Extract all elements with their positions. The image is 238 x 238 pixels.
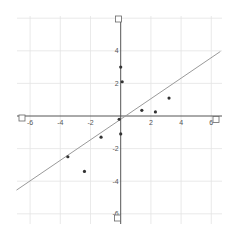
y-tick-label: 2 (115, 80, 119, 87)
y-tick-label: 4 (115, 47, 119, 54)
data-point (66, 155, 69, 158)
data-point (121, 80, 124, 83)
data-point (119, 132, 122, 135)
x-tick-label: -2 (87, 119, 93, 126)
x-tick-label: -6 (27, 119, 33, 126)
data-point (140, 109, 143, 112)
x-tick-label: 2 (149, 119, 153, 126)
data-point (167, 96, 170, 99)
x-tick-label: -4 (57, 119, 63, 126)
y-min-handle[interactable] (115, 215, 121, 221)
data-point (99, 136, 102, 139)
data-point (119, 66, 122, 69)
x-min-handle[interactable] (19, 115, 25, 121)
data-point (118, 118, 121, 121)
tick-labels: -6-4-224642-2-4-6 (27, 47, 213, 217)
x-tick-label: 4 (179, 119, 183, 126)
regression-line (17, 51, 221, 190)
fit-line (17, 51, 221, 190)
y-tick-label: -4 (112, 178, 118, 185)
scatter-plot: -6-4-224642-2-4-6 (0, 0, 238, 238)
data-point (154, 110, 157, 113)
x-max-handle[interactable] (213, 117, 219, 123)
y-max-handle[interactable] (116, 16, 122, 22)
y-tick-label: -2 (112, 145, 118, 152)
data-point (83, 170, 86, 173)
